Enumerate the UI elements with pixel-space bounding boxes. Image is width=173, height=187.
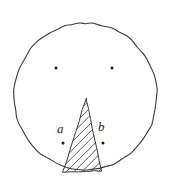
point-label-b: b <box>98 120 105 133</box>
point-label-a: a <box>57 122 64 135</box>
outer-circle <box>14 23 158 170</box>
hatch-line <box>57 42 108 94</box>
hatch-line <box>57 74 108 125</box>
point-a <box>62 142 65 145</box>
upper-right-point <box>111 67 114 70</box>
hatch-line <box>57 178 108 187</box>
upper-left-point <box>55 67 58 70</box>
point-b <box>102 142 105 145</box>
hatch-line <box>57 50 108 101</box>
geometry-sketch-svg <box>0 0 173 187</box>
figure-canvas: a b <box>0 0 173 187</box>
hatch-line <box>57 130 108 180</box>
hatch-line <box>57 138 108 187</box>
hatch-line <box>57 58 108 109</box>
